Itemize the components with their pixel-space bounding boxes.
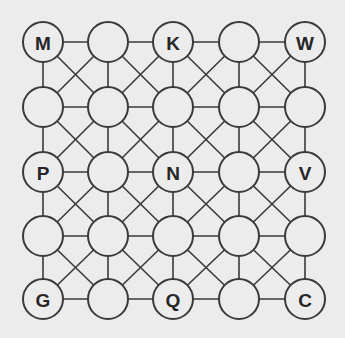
node-label: C (298, 290, 312, 311)
node-circle (88, 216, 128, 256)
node-empty-r3c1[interactable] (88, 216, 128, 256)
node-v[interactable]: V (285, 152, 325, 192)
node-circle (88, 87, 128, 127)
node-empty-r1c1[interactable] (88, 87, 128, 127)
node-label: P (37, 163, 50, 184)
node-c[interactable]: C (285, 279, 325, 319)
node-empty-r3c2[interactable] (153, 216, 193, 256)
node-empty-r3c3[interactable] (219, 216, 259, 256)
node-circle (285, 87, 325, 127)
node-empty-r4c1[interactable] (88, 279, 128, 319)
node-label: G (36, 290, 51, 311)
node-label: M (35, 33, 51, 54)
node-label: Q (166, 290, 181, 311)
node-label: V (299, 163, 312, 184)
node-circle (23, 87, 63, 127)
node-circle (88, 22, 128, 62)
node-n[interactable]: N (153, 152, 193, 192)
node-empty-r1c3[interactable] (219, 87, 259, 127)
node-label: N (166, 163, 180, 184)
node-circle (23, 216, 63, 256)
node-empty-r3c0[interactable] (23, 216, 63, 256)
node-g[interactable]: G (23, 279, 63, 319)
node-circle (153, 87, 193, 127)
node-q[interactable]: Q (153, 279, 193, 319)
node-circle (219, 216, 259, 256)
puzzle-board: MKWPNVGQC (0, 0, 345, 338)
node-m[interactable]: M (23, 22, 63, 62)
node-circle (153, 216, 193, 256)
node-circle (285, 216, 325, 256)
node-empty-r4c3[interactable] (219, 279, 259, 319)
node-empty-r3c4[interactable] (285, 216, 325, 256)
node-empty-r1c4[interactable] (285, 87, 325, 127)
node-k[interactable]: K (153, 22, 193, 62)
node-empty-r1c2[interactable] (153, 87, 193, 127)
node-empty-r2c1[interactable] (88, 152, 128, 192)
node-circle (219, 22, 259, 62)
node-empty-r2c3[interactable] (219, 152, 259, 192)
node-circle (219, 152, 259, 192)
node-w[interactable]: W (285, 22, 325, 62)
node-empty-r0c1[interactable] (88, 22, 128, 62)
node-label: K (166, 33, 180, 54)
node-p[interactable]: P (23, 152, 63, 192)
node-circle (219, 279, 259, 319)
node-circle (88, 279, 128, 319)
node-label: W (296, 33, 314, 54)
node-circle (88, 152, 128, 192)
node-empty-r0c3[interactable] (219, 22, 259, 62)
node-circle (219, 87, 259, 127)
node-empty-r1c0[interactable] (23, 87, 63, 127)
